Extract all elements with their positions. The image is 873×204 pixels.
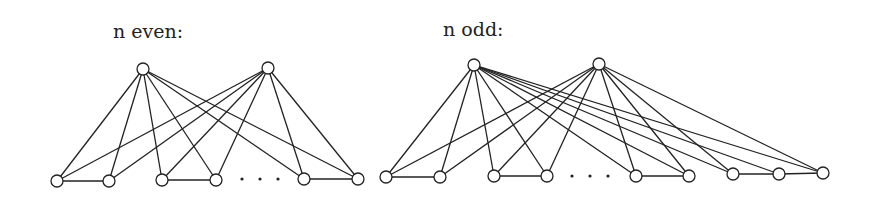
label-n-odd: n odd: <box>443 18 503 40</box>
ellipsis-dot <box>588 174 591 177</box>
bottom-vertex <box>488 170 500 182</box>
edge <box>109 68 268 181</box>
graph-n-odd: n odd: <box>380 18 829 183</box>
edge <box>474 65 779 174</box>
bottom-vertex <box>434 171 446 183</box>
ellipsis-dot <box>276 177 279 180</box>
bottom-vertex <box>156 174 168 186</box>
edge <box>386 65 474 177</box>
edge <box>143 69 358 179</box>
edge <box>57 69 143 181</box>
edge <box>474 65 689 176</box>
edge <box>143 69 162 180</box>
edge <box>474 65 733 174</box>
bottom-vertex <box>210 174 222 186</box>
graph-diagram: n even: n odd: <box>0 0 873 204</box>
edge <box>143 69 216 180</box>
label-n-even: n even: <box>113 20 183 42</box>
bottom-vertex <box>773 168 785 180</box>
edge <box>109 69 143 181</box>
edge <box>268 68 304 179</box>
bottom-vertex <box>352 173 364 185</box>
top-vertex <box>593 58 605 70</box>
edge <box>474 65 494 176</box>
bottom-vertex <box>630 170 642 182</box>
bottom-vertex <box>298 173 310 185</box>
edge <box>440 65 474 177</box>
bottom-vertex <box>683 170 695 182</box>
bottom-vertex <box>817 167 829 179</box>
bottom-vertex <box>541 170 553 182</box>
bottom-vertex <box>380 171 392 183</box>
ellipsis-dot <box>258 177 261 180</box>
bottom-vertex <box>103 175 115 187</box>
edge <box>386 64 599 177</box>
ellipsis-dot <box>606 174 609 177</box>
edge <box>162 68 268 180</box>
edge <box>57 68 268 181</box>
top-vertex <box>262 62 274 74</box>
bottom-vertex <box>51 175 63 187</box>
bottom-vertex <box>727 168 739 180</box>
edge <box>474 65 823 173</box>
edge <box>268 68 358 179</box>
ellipsis-dot <box>570 174 573 177</box>
graph-n-even: n even: <box>51 20 364 187</box>
top-vertex <box>137 63 149 75</box>
top-vertex <box>468 59 480 71</box>
ellipsis-dot <box>240 177 243 180</box>
